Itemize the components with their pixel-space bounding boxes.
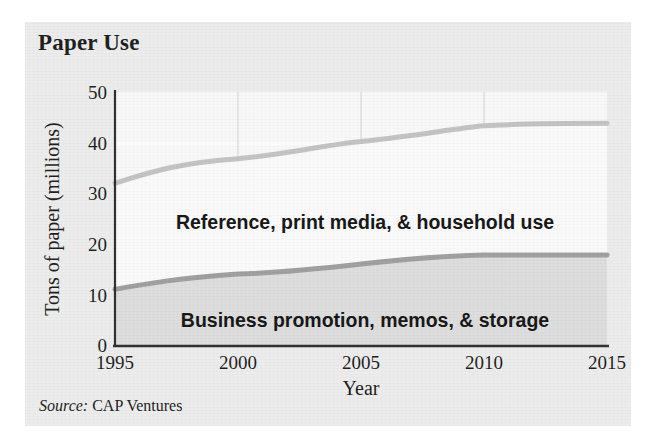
y-tick-10: 10 [88,285,107,306]
y-tick-50: 50 [88,82,107,103]
y-axis-tick-labels: 50 40 30 20 10 0 [88,82,107,356]
y-tick-20: 20 [88,234,107,255]
x-axis-tick-labels: 1995 2000 2005 2010 2015 [96,352,626,373]
paper-use-area-chart: 50 40 30 20 10 0 Tons of paper (millions… [25,22,631,426]
x-axis-title: Year [343,377,380,399]
x-tick-2005: 2005 [342,352,380,373]
source-label: Source: [39,397,88,414]
x-tick-2015: 2015 [588,352,626,373]
chart-figure-panel: Paper Use 50 40 [25,22,631,426]
y-axis-title: Tons of paper (millions) [41,122,64,316]
x-tick-1995: 1995 [96,352,134,373]
x-tick-2000: 2000 [219,352,257,373]
band-label-reference-print-media: Reference, print media, & household use [176,211,554,233]
y-tick-40: 40 [88,133,107,154]
source-value: CAP Ventures [92,397,182,414]
source-note: Source: CAP Ventures [39,397,182,415]
y-tick-30: 30 [88,183,107,204]
band-label-business-promotion: Business promotion, memos, & storage [181,309,550,331]
x-tick-2010: 2010 [465,352,503,373]
